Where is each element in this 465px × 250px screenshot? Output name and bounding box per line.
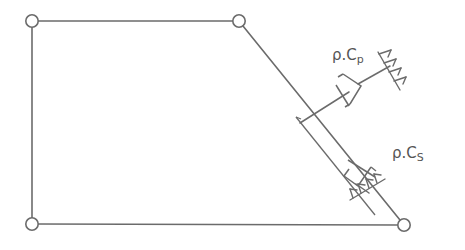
joint-top-left — [26, 15, 38, 27]
label-damper-cp-subscript: p — [357, 53, 364, 66]
link-diagonal-bar — [243, 26, 400, 220]
joint-bottom-right — [398, 219, 410, 231]
joint-top-right — [233, 15, 245, 27]
mechanism-diagram: ρ.Cp ρ.CS — [0, 0, 465, 250]
label-damper-cs: ρ.CS — [392, 146, 424, 161]
damper-cs-cylinder-stub-a — [344, 169, 349, 176]
damper-cp-rod — [300, 92, 349, 123]
joint-bottom-left — [26, 218, 38, 230]
damper-cp-ground-hatching — [379, 50, 406, 84]
damper-cp-ground-stem — [358, 66, 390, 84]
damper-cp-piston-plate — [336, 85, 349, 106]
diagram-canvas — [0, 0, 465, 250]
slider-rail-group — [296, 117, 375, 215]
damper-cp-cylinder-stub-top — [338, 74, 343, 77]
slider-rail-line — [296, 117, 375, 215]
label-damper-cs-subscript: S — [417, 151, 424, 164]
damper-cs-cylinder-stub-b — [371, 167, 376, 171]
label-damper-cp: ρ.Cp — [332, 48, 364, 63]
link-bottom-bar — [38, 224, 398, 225]
label-damper-cs-base: ρ.C — [392, 144, 417, 162]
damper-cs-piston-plate — [348, 160, 375, 177]
label-damper-cp-base: ρ.C — [332, 46, 357, 64]
